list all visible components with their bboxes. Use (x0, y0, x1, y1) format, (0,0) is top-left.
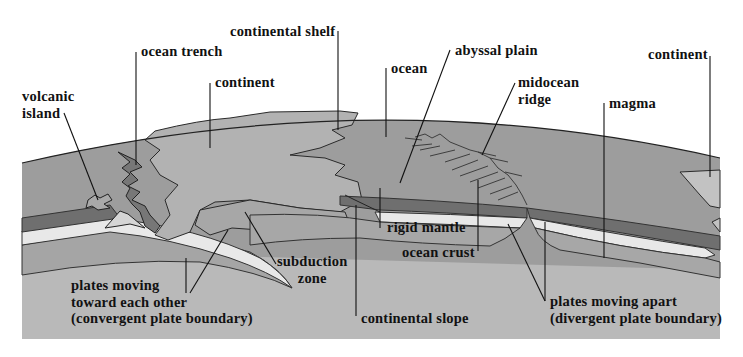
label-midocean-ridge: midocean ridge (518, 74, 579, 107)
plate-tectonics-diagram: continental shelf ocean trench continent… (0, 0, 743, 357)
label-divergent-boundary: plates moving apart (divergent plate bou… (550, 293, 722, 326)
label-continent-right: continent (648, 46, 708, 63)
label-ocean: ocean (391, 60, 427, 77)
label-volcanic-island: volcanic island (22, 88, 74, 121)
label-continental-shelf: continental shelf (230, 23, 335, 40)
label-magma: magma (609, 95, 656, 112)
label-continental-slope: continental slope (361, 310, 469, 327)
label-abyssal-plain: abyssal plain (455, 42, 538, 59)
label-subduction-zone: subduction zone (277, 253, 348, 286)
label-rigid-mantle: rigid mantle (387, 219, 466, 236)
label-continent-left: continent (215, 74, 275, 91)
label-ocean-trench: ocean trench (141, 43, 222, 60)
label-ocean-crust: ocean crust (402, 244, 475, 261)
label-convergent-boundary: plates moving toward each other (converg… (71, 277, 253, 327)
